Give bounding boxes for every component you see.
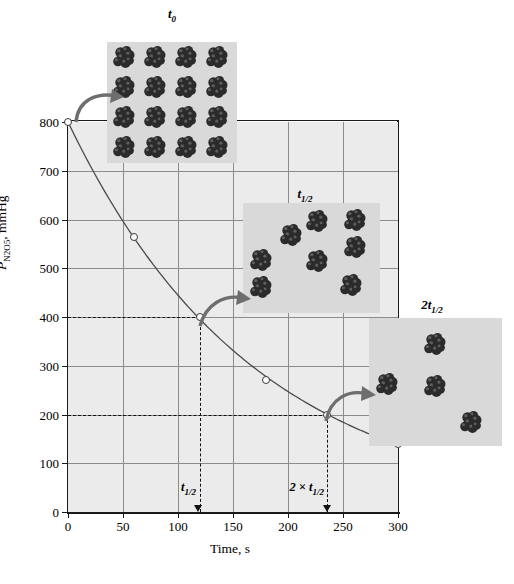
molecule-n2o5	[279, 223, 305, 249]
molecule-n2o5	[423, 374, 449, 400]
inset-t-half-label: t1/2	[297, 186, 312, 204]
t-half-axis-label: t1/2	[181, 480, 196, 497]
molecule-n2o5	[249, 248, 275, 274]
data-point	[64, 118, 72, 126]
x-tick	[68, 512, 69, 518]
molecule-n2o5	[339, 273, 365, 299]
molecule-n2o5	[143, 135, 169, 161]
molecule-n2o5	[112, 105, 138, 131]
y-tick	[62, 171, 68, 172]
molecule-n2o5	[143, 45, 169, 71]
gridline-vertical	[288, 122, 289, 512]
molecule-n2o5	[112, 75, 138, 101]
x-tick	[398, 512, 399, 518]
y-tick-label: 800	[40, 116, 60, 129]
x-tick-label: 150	[223, 520, 243, 533]
inset-two-t-half	[369, 318, 502, 446]
molecule-n2o5	[143, 75, 169, 101]
x-tick-label: 100	[168, 520, 188, 533]
molecule-n2o5	[143, 105, 169, 131]
x-tick	[123, 512, 124, 518]
x-tick-label: 0	[65, 520, 72, 533]
gridline-vertical	[343, 122, 344, 512]
molecule-n2o5	[174, 135, 200, 161]
molecule-n2o5	[375, 372, 401, 398]
x-tick-label: 200	[278, 520, 298, 533]
molecule-n2o5	[174, 45, 200, 71]
inset-t-half	[243, 203, 380, 313]
inset-t0	[107, 42, 237, 163]
y-tick	[62, 220, 68, 221]
inset-t0-label: t0	[168, 6, 176, 24]
molecule-n2o5	[343, 235, 369, 261]
molecule-n2o5	[305, 249, 331, 275]
molecule-n2o5	[459, 410, 485, 436]
x-tick	[233, 512, 234, 518]
molecule-n2o5	[305, 209, 331, 235]
y-tick-label: 400	[40, 311, 60, 324]
molecule-n2o5	[112, 135, 138, 161]
plot-area: t1/2 2 × t1/2 8007006005004003002001000 …	[68, 122, 398, 512]
gridline-vertical	[233, 122, 234, 512]
y-tick	[62, 366, 68, 367]
y-tick-label: 300	[40, 359, 60, 372]
molecule-n2o5	[205, 105, 231, 131]
y-tick-label: 200	[40, 408, 60, 421]
y-tick	[62, 463, 68, 464]
molecule-n2o5	[112, 45, 138, 71]
y-tick-label: 700	[40, 164, 60, 177]
guide-line-400	[68, 317, 200, 318]
data-point	[323, 411, 331, 419]
x-tick	[288, 512, 289, 518]
2t-half-axis-label: 2 × t1/2	[289, 480, 324, 497]
y-tick	[62, 268, 68, 269]
molecule-n2o5	[174, 105, 200, 131]
y-tick-label: 500	[40, 262, 60, 275]
guide-line-2t-half	[327, 415, 328, 513]
t-half-arrow	[194, 505, 202, 512]
data-point	[196, 313, 204, 321]
y-tick-label: 600	[40, 213, 60, 226]
reaction-kinetics-figure: t1/2 2 × t1/2 8007006005004003002001000 …	[0, 0, 514, 584]
x-axis-title: Time, s	[0, 541, 460, 557]
data-point	[130, 233, 138, 241]
x-tick	[178, 512, 179, 518]
molecule-n2o5	[205, 45, 231, 71]
molecule-n2o5	[174, 75, 200, 101]
molecule-n2o5	[343, 208, 369, 234]
guide-line-200	[68, 415, 327, 416]
x-tick-label: 300	[388, 520, 408, 533]
inset-two-t-half-label: 2t1/2	[421, 297, 443, 315]
molecule-n2o5	[249, 275, 275, 301]
2t-half-arrow	[323, 505, 331, 512]
y-axis-title: PN2O5, mmHg	[0, 195, 12, 270]
x-tick-label: 50	[117, 520, 130, 533]
molecule-n2o5	[205, 75, 231, 101]
y-tick-label: 100	[40, 457, 60, 470]
y-tick-label: 0	[53, 506, 60, 519]
molecule-n2o5	[423, 332, 449, 358]
x-tick-label: 250	[333, 520, 353, 533]
data-point	[262, 376, 270, 384]
molecule-n2o5	[205, 135, 231, 161]
x-tick	[343, 512, 344, 518]
